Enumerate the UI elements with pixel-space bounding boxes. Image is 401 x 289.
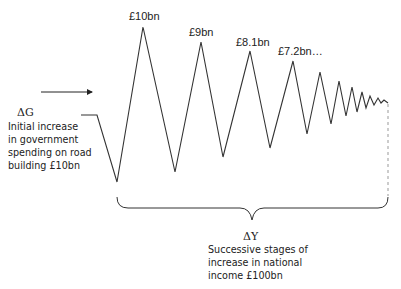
peak-label-4: £7.2bn… [278,45,323,57]
bottom-annotation-line: increase in national [208,256,308,269]
left-annotation-line: building £10bn [8,159,92,172]
left-annotation-line: spending on road [8,146,92,159]
bottom-annotation: Successive stages of increase in nationa… [208,243,308,282]
left-annotation-line: Initial increase [8,120,92,133]
left-annotation: Initial increase in government spending … [8,120,92,172]
brace [117,197,388,220]
left-annotation-line: in government [8,133,92,146]
bottom-annotation-line: income £100bn [208,269,308,282]
delta-g-symbol: ΔG [17,107,34,119]
peak-label-2: £9bn [189,26,213,38]
bottom-annotation-line: Successive stages of [208,243,308,256]
delta-y-symbol: ΔY [243,231,258,243]
zigzag-line [81,27,388,182]
peak-label-3: £8.1bn [236,36,270,48]
peak-label-1: £10bn [129,10,160,22]
